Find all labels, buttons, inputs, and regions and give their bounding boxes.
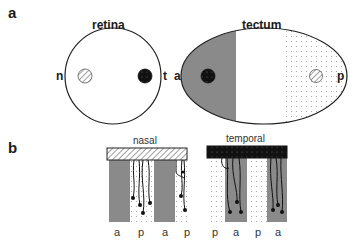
temporal-stripe-label: a [268, 226, 288, 238]
tectum-title: tectum [242, 18, 281, 32]
tectum-posterior-label: p [337, 69, 344, 83]
nasal-spot-icon [78, 69, 92, 83]
temporal-explant-bar [207, 146, 287, 158]
temporal-stripe-assay [207, 146, 287, 222]
temporal-title: temporal [226, 133, 265, 144]
tectum-posterior-spot-icon [310, 70, 323, 83]
retina-title: retina [92, 18, 125, 32]
panel-label-b: b [8, 139, 17, 156]
tectum-anterior-spot-icon [201, 69, 215, 83]
nasal-title: nasal [133, 135, 157, 146]
nasal-stripe-label: p [131, 226, 151, 238]
temporal-stripe-label: p [248, 226, 268, 238]
temporal-stripe-label: a [226, 226, 246, 238]
nasal-stripe-assay [107, 148, 187, 222]
nasal-explant-bar [107, 148, 187, 160]
retina-nasal-label: n [56, 69, 63, 83]
tectum-diagram [181, 28, 348, 124]
nasal-stripe-label: p [177, 226, 197, 238]
temporal-stripe-label: p [205, 226, 225, 238]
panel-label-a: a [8, 4, 16, 21]
temporal-spot-icon [138, 69, 152, 83]
nasal-stripe-label: a [107, 226, 127, 238]
retina-temporal-label: t [163, 69, 167, 83]
figure-graphics [0, 0, 352, 245]
tectum-anterior-label: a [174, 69, 181, 83]
retina-diagram [65, 28, 161, 124]
nasal-stripe-label: a [155, 226, 175, 238]
